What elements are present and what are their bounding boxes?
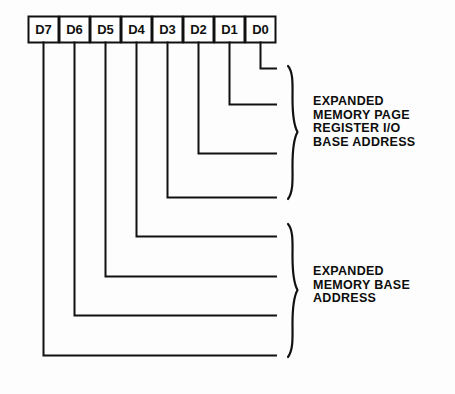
group-label-expanded-memory-page-register-io-base-address: EXPANDED MEMORY PAGE REGISTER I/O BASE A… [313, 95, 415, 149]
brace-lower-group [288, 224, 298, 357]
bit-box-d1: D1 [215, 17, 245, 43]
bit-box-label-d6: D6 [66, 22, 83, 37]
bit-box-d4: D4 [122, 17, 152, 43]
leader-line-d5 [106, 43, 277, 277]
bit-box-label-d5: D5 [97, 22, 114, 37]
bit-box-label-d3: D3 [159, 22, 176, 37]
leader-line-d1 [230, 43, 277, 105]
brace-upper-group [288, 66, 298, 199]
bit-box-row: D7 D6 D5 D4 D3 [29, 17, 276, 43]
bit-box-d6: D6 [60, 17, 90, 43]
diagram-page: D7 D6 D5 D4 D3 [0, 0, 455, 394]
bit-box-d3: D3 [153, 17, 183, 43]
bit-box-label-d4: D4 [128, 22, 145, 37]
bit-box-label-d7: D7 [35, 22, 52, 37]
bit-box-label-d0: D0 [252, 22, 269, 37]
bit-box-d5: D5 [91, 17, 121, 43]
leader-lines-upper-group [168, 43, 277, 198]
leader-lines-lower-group [44, 43, 277, 356]
group-label-expanded-memory-base-address: EXPANDED MEMORY BASE ADDRESS [313, 265, 410, 306]
leader-line-d0 [261, 43, 277, 69]
bit-box-d7: D7 [29, 17, 59, 43]
bit-box-d0: D0 [246, 17, 276, 43]
leader-line-d4 [137, 43, 277, 237]
bit-box-label-d2: D2 [190, 22, 207, 37]
leader-line-d7 [44, 43, 277, 356]
bit-box-label-d1: D1 [221, 22, 238, 37]
bit-field-diagram: D7 D6 D5 D4 D3 [0, 0, 455, 394]
leader-line-d2 [199, 43, 277, 154]
bit-box-d2: D2 [184, 17, 214, 43]
